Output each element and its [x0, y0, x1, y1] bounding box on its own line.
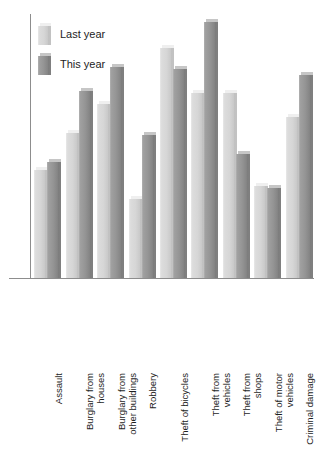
x-axis-labels: AssaultBurglary from housesBurglary from… — [31, 281, 314, 375]
bar-last-year — [286, 117, 298, 278]
x-axis-label: Assault — [53, 373, 64, 449]
bar-this-year — [204, 22, 216, 278]
x-axis-label: Theft from shops — [241, 373, 263, 449]
x-axis-label: Criminal damage — [304, 373, 315, 449]
bar-this-year — [299, 75, 311, 278]
x-axis-label: Burglary from other buildings — [116, 373, 138, 449]
x-axis-label: Robbery — [147, 373, 158, 449]
x-axis-label: Theft from vehicles — [210, 373, 232, 449]
bar-group — [62, 14, 93, 278]
bar-group — [283, 14, 314, 278]
bar-this-year — [47, 162, 59, 278]
x-axis-label: Theft of bicycles — [179, 373, 190, 449]
bar-this-year — [173, 69, 185, 278]
bar-last-year — [66, 133, 78, 278]
x-axis-label: Theft of motor vehicles — [273, 373, 295, 449]
bar-last-year — [97, 104, 109, 278]
legend-swatch-last-year — [38, 26, 49, 45]
legend-label-this-year: This year — [60, 57, 105, 71]
bar-group — [94, 14, 125, 278]
bar-group — [125, 14, 156, 278]
bar-group — [251, 14, 282, 278]
bar-this-year — [110, 67, 122, 278]
x-axis-line — [9, 278, 314, 279]
bar-this-year — [236, 154, 248, 278]
bar-last-year — [34, 170, 46, 278]
bar-this-year — [79, 91, 91, 278]
legend-swatch-this-year — [38, 56, 49, 75]
bar-last-year — [129, 199, 141, 278]
plot-area — [31, 14, 314, 278]
bar-last-year — [254, 186, 266, 278]
bar-this-year — [267, 188, 279, 278]
bar-last-year — [160, 48, 172, 278]
bar-group — [220, 14, 251, 278]
bar-group — [188, 14, 219, 278]
legend-label-last-year: Last year — [60, 27, 105, 41]
bar-this-year — [142, 135, 154, 278]
bar-last-year — [191, 93, 203, 278]
x-axis-label: Burglary from houses — [84, 373, 106, 449]
bar-last-year — [223, 93, 235, 278]
bar-group — [157, 14, 188, 278]
